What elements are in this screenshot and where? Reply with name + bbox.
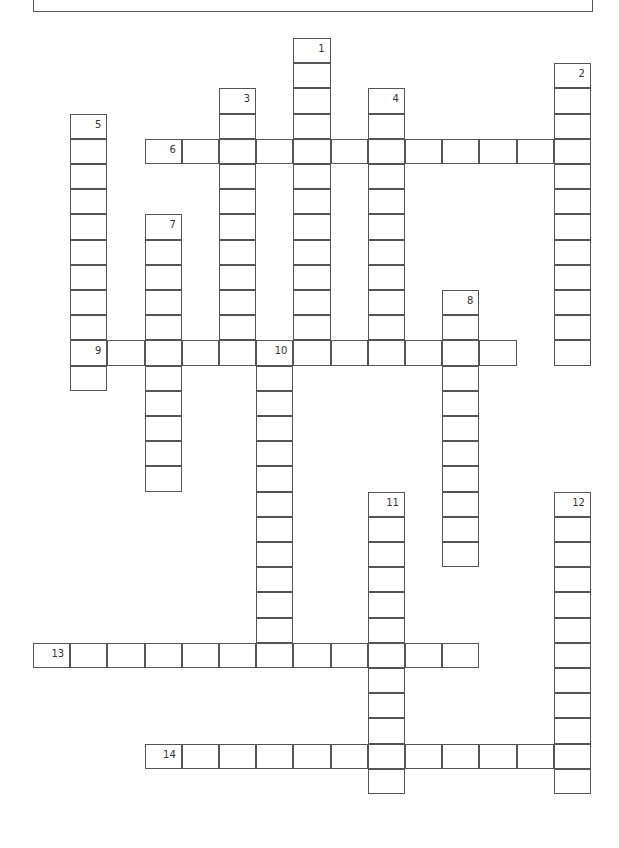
crossword-cell[interactable]: 6 — [145, 139, 182, 164]
crossword-cell[interactable] — [368, 668, 405, 693]
crossword-cell[interactable] — [479, 744, 516, 769]
crossword-cell[interactable] — [256, 592, 293, 617]
crossword-cell[interactable] — [368, 592, 405, 617]
crossword-cell[interactable] — [554, 668, 591, 693]
crossword-cell[interactable] — [479, 139, 516, 164]
crossword-cell[interactable] — [145, 366, 182, 391]
crossword-cell[interactable] — [368, 265, 405, 290]
crossword-cell[interactable] — [293, 164, 330, 189]
crossword-cell[interactable] — [70, 164, 107, 189]
crossword-cell[interactable] — [145, 391, 182, 416]
crossword-cell[interactable]: 3 — [219, 88, 256, 113]
crossword-cell[interactable] — [70, 366, 107, 391]
crossword-cell[interactable] — [256, 492, 293, 517]
crossword-cell[interactable] — [368, 517, 405, 542]
crossword-cell[interactable] — [145, 265, 182, 290]
crossword-cell[interactable] — [107, 643, 144, 668]
crossword-cell[interactable] — [554, 315, 591, 340]
crossword-cell[interactable]: 1 — [293, 38, 330, 63]
crossword-cell[interactable]: 8 — [442, 290, 479, 315]
crossword-cell[interactable] — [293, 114, 330, 139]
crossword-cell[interactable] — [368, 693, 405, 718]
crossword-cell[interactable] — [442, 517, 479, 542]
crossword-cell[interactable] — [182, 643, 219, 668]
crossword-cell[interactable]: 7 — [145, 214, 182, 239]
crossword-cell[interactable] — [405, 340, 442, 365]
crossword-cell[interactable] — [442, 139, 479, 164]
crossword-cell[interactable] — [219, 114, 256, 139]
crossword-cell[interactable] — [368, 769, 405, 794]
crossword-cell[interactable] — [554, 643, 591, 668]
crossword-cell[interactable] — [368, 643, 405, 668]
crossword-cell[interactable] — [331, 340, 368, 365]
crossword-cell[interactable] — [145, 643, 182, 668]
crossword-cell[interactable] — [554, 517, 591, 542]
crossword-cell[interactable] — [293, 88, 330, 113]
crossword-cell[interactable] — [517, 744, 554, 769]
crossword-cell[interactable] — [442, 744, 479, 769]
crossword-cell[interactable] — [442, 416, 479, 441]
crossword-cell[interactable] — [554, 214, 591, 239]
crossword-cell[interactable] — [554, 139, 591, 164]
crossword-cell[interactable] — [182, 744, 219, 769]
crossword-cell[interactable] — [331, 139, 368, 164]
crossword-cell[interactable] — [219, 315, 256, 340]
crossword-cell[interactable] — [145, 416, 182, 441]
crossword-cell[interactable] — [331, 643, 368, 668]
crossword-cell[interactable] — [256, 542, 293, 567]
crossword-cell[interactable] — [219, 240, 256, 265]
crossword-cell[interactable] — [70, 214, 107, 239]
crossword-cell[interactable] — [219, 290, 256, 315]
crossword-cell[interactable] — [219, 744, 256, 769]
crossword-cell[interactable] — [70, 315, 107, 340]
crossword-cell[interactable] — [554, 290, 591, 315]
crossword-cell[interactable] — [70, 290, 107, 315]
crossword-cell[interactable] — [182, 340, 219, 365]
crossword-cell[interactable] — [293, 290, 330, 315]
crossword-cell[interactable] — [517, 139, 554, 164]
crossword-cell[interactable] — [442, 466, 479, 491]
crossword-cell[interactable] — [70, 240, 107, 265]
crossword-cell[interactable] — [331, 744, 368, 769]
crossword-cell[interactable] — [554, 542, 591, 567]
crossword-cell[interactable] — [554, 567, 591, 592]
crossword-cell[interactable] — [145, 240, 182, 265]
crossword-cell[interactable] — [368, 718, 405, 743]
crossword-cell[interactable] — [368, 542, 405, 567]
crossword-cell[interactable] — [368, 114, 405, 139]
crossword-cell[interactable] — [554, 88, 591, 113]
crossword-cell[interactable] — [442, 366, 479, 391]
crossword-cell[interactable] — [554, 189, 591, 214]
crossword-cell[interactable] — [256, 416, 293, 441]
crossword-cell[interactable] — [219, 214, 256, 239]
crossword-cell[interactable] — [219, 139, 256, 164]
crossword-cell[interactable] — [368, 315, 405, 340]
crossword-cell[interactable]: 9 — [70, 340, 107, 365]
crossword-cell[interactable]: 11 — [368, 492, 405, 517]
crossword-cell[interactable] — [554, 265, 591, 290]
crossword-cell[interactable] — [219, 643, 256, 668]
crossword-cell[interactable] — [554, 744, 591, 769]
crossword-cell[interactable] — [256, 744, 293, 769]
crossword-cell[interactable] — [405, 139, 442, 164]
crossword-cell[interactable] — [442, 643, 479, 668]
crossword-cell[interactable]: 4 — [368, 88, 405, 113]
crossword-cell[interactable]: 2 — [554, 63, 591, 88]
crossword-cell[interactable]: 12 — [554, 492, 591, 517]
crossword-cell[interactable] — [368, 189, 405, 214]
crossword-cell[interactable] — [256, 366, 293, 391]
crossword-cell[interactable] — [293, 139, 330, 164]
crossword-cell[interactable] — [145, 290, 182, 315]
crossword-cell[interactable] — [70, 189, 107, 214]
crossword-cell[interactable] — [219, 164, 256, 189]
crossword-cell[interactable] — [442, 492, 479, 517]
crossword-cell[interactable] — [256, 643, 293, 668]
crossword-cell[interactable] — [293, 340, 330, 365]
crossword-cell[interactable] — [442, 391, 479, 416]
crossword-cell[interactable] — [554, 340, 591, 365]
crossword-cell[interactable] — [256, 441, 293, 466]
crossword-cell[interactable] — [145, 441, 182, 466]
crossword-cell[interactable] — [368, 164, 405, 189]
crossword-cell[interactable] — [554, 240, 591, 265]
crossword-cell[interactable] — [145, 466, 182, 491]
